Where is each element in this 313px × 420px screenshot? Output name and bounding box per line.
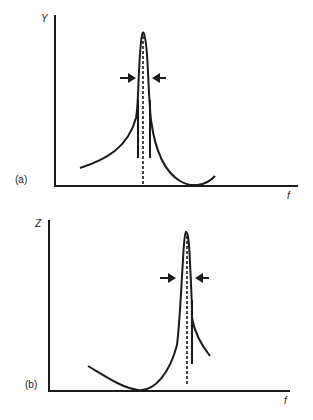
- panel-label-a: (a): [15, 174, 27, 185]
- arrow-a-left: [120, 73, 136, 83]
- diagram-canvas: [0, 0, 313, 420]
- x-axis-label-b: f: [284, 395, 287, 406]
- arrow-b-left: [160, 273, 176, 283]
- curve-a-left: [80, 32, 143, 168]
- curve-b-branch: [192, 318, 210, 356]
- y-axis-label-b: Z: [35, 218, 41, 229]
- panel-a: [54, 15, 298, 186]
- arrow-b-right: [195, 273, 209, 283]
- x-axis-label-a: f: [287, 190, 290, 201]
- panel-label-b: (b): [25, 379, 37, 390]
- curve-b-main: [88, 232, 192, 390]
- panel-b: [48, 220, 290, 391]
- y-axis-label-a: Y: [41, 13, 48, 24]
- arrow-a-right: [152, 73, 166, 83]
- curve-a-peak-right: [143, 32, 215, 185]
